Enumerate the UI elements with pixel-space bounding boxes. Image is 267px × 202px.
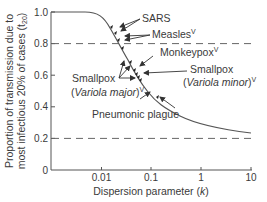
y-axis: 1.0 0.8 0.6 0.4 0.2 0 [34,7,55,176]
y-tick-0.2: 0.2 [34,133,48,144]
y-tick-0.6: 0.6 [34,70,48,81]
label-measles: MeaslesV [152,28,196,40]
svg-text:most infectious 20% of cases (: most infectious 20% of cases (t20) [15,13,28,170]
label-smallpox-major-variant: (Variola major)V [71,86,144,98]
y-tick-0.4: 0.4 [34,101,48,112]
y-axis-title: Proportion of transmission due to most i… [3,13,28,170]
label-smallpox-minor-variant: (Variola minor)V [183,76,256,88]
y-tick-1.0: 1.0 [34,7,48,18]
label-monkeypox: MonkeypoxV [160,46,219,58]
x-tick-10: 10 [245,172,257,183]
x-tick-0.1: 0.1 [144,172,158,183]
label-sars: SARS [142,12,171,24]
label-pneumonic-plague: Pneumonic plague [92,108,179,120]
chart: 1.0 0.8 0.6 0.4 0.2 0 0.01 0.1 1 10 Disp… [0,0,267,202]
x-tick-1: 1 [198,172,204,183]
y-tick-0.8: 0.8 [34,38,48,49]
x-axis: 0.01 0.1 1 10 [51,167,257,183]
label-smallpox-minor: Smallpox [190,63,234,75]
x-axis-title: Dispersion parameter (k) [93,185,209,197]
label-smallpox-major: Smallpox [72,72,116,84]
svg-text:Proportion of transmission due: Proportion of transmission due to [3,14,15,168]
x-tick-0.01: 0.01 [92,172,112,183]
y-tick-0: 0 [42,165,48,176]
